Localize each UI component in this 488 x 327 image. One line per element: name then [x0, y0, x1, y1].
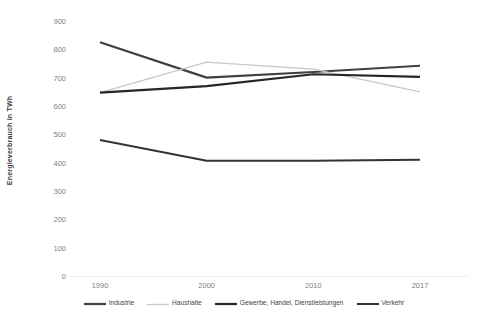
series-lines	[0, 0, 488, 327]
legend-item[interactable]: Haushalte	[147, 300, 202, 307]
legend-color-swatch	[84, 300, 106, 307]
legend-color-swatch	[357, 300, 379, 307]
legend-item[interactable]: Gewerbe, Handel, Dienstleistungen	[215, 300, 344, 307]
series-line	[100, 140, 420, 161]
legend-label: Gewerbe, Handel, Dienstleistungen	[240, 300, 344, 307]
legend-label: Haushalte	[172, 300, 202, 307]
x-tick-label: 1990	[92, 281, 109, 290]
chart-legend: IndustrieHaushalteGewerbe, Handel, Diens…	[0, 300, 488, 307]
legend-item[interactable]: Industrie	[84, 300, 134, 307]
series-line	[100, 74, 420, 92]
legend-label: Industrie	[109, 300, 134, 307]
plot-area	[0, 0, 488, 327]
legend-label: Verkehr	[382, 300, 405, 307]
legend-color-swatch	[147, 300, 169, 307]
legend-color-swatch	[215, 300, 237, 307]
legend-item[interactable]: Verkehr	[357, 300, 405, 307]
x-tick-label: 2010	[305, 281, 322, 290]
series-line	[100, 42, 420, 77]
x-tick-label: 2017	[412, 281, 429, 290]
line-chart: Energieverbrauch in TWh 0100200300400500…	[0, 0, 488, 327]
series-line	[100, 62, 420, 93]
x-tick-label: 2000	[198, 281, 215, 290]
